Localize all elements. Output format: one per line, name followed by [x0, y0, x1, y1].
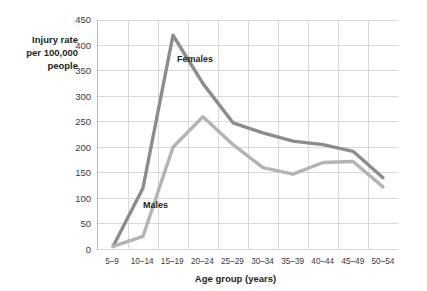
series-label-males: Males [143, 200, 168, 210]
x-axis-title: Age group (years) [151, 273, 276, 284]
y-tick-label: 200 [57, 143, 91, 153]
x-tick-label: 35–39 [281, 257, 304, 266]
y-tick-label: 450 [57, 15, 91, 25]
x-tick-label: 50–54 [372, 257, 395, 266]
x-tick-label: 15–19 [161, 257, 184, 266]
x-tick-label: 10–14 [131, 257, 154, 266]
x-tick-label: 30–34 [251, 257, 274, 266]
y-tick-label: 400 [57, 41, 91, 51]
x-tick-label: 45–49 [341, 257, 364, 266]
y-tick-label: 300 [57, 92, 91, 102]
x-tick-label: 5–9 [105, 257, 119, 266]
y-tick-label: 250 [57, 117, 91, 127]
series-lines [98, 20, 398, 249]
y-tick-label: 150 [57, 168, 91, 178]
plot-area [97, 20, 398, 250]
y-tick-label: 350 [57, 66, 91, 76]
y-tick-label: 100 [57, 194, 91, 204]
x-tick-label: 20–24 [191, 257, 214, 266]
y-tick-label: 0 [57, 245, 91, 255]
x-axis-title-wrapper: Age group (years) [0, 273, 427, 284]
x-tick-label: 25–29 [221, 257, 244, 266]
injury-rate-line-chart: Injury rate per 100,000 people 050100150… [0, 0, 427, 291]
x-tick-label: 40–44 [311, 257, 334, 266]
y-tick-label: 50 [57, 219, 91, 229]
series-label-females: Females [177, 54, 213, 64]
